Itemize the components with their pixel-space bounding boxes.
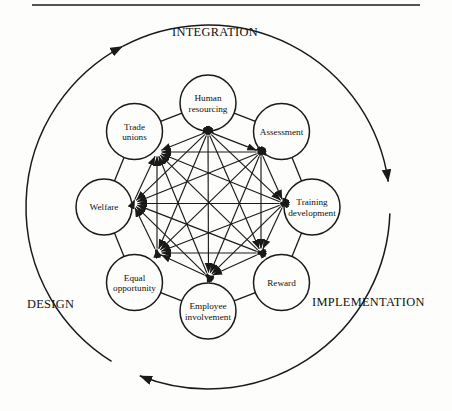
node-label-assessment: Assessment	[260, 127, 304, 137]
edge-v-top-right-v-left	[137, 154, 256, 202]
node-connector-reward-to-employee-involvement	[234, 293, 255, 301]
node-label-line: unions	[122, 132, 147, 142]
phase-label-implementation: IMPLEMENTATION	[312, 295, 425, 309]
edge-v-bottom-v-bottom-left	[161, 255, 204, 275]
node-label-line: involvement	[185, 312, 231, 322]
node-label-trade-unions: Tradeunions	[122, 122, 147, 142]
node-label-equal-opportunity: Equalopportunity	[113, 273, 156, 293]
node-label-line: Human	[194, 93, 221, 103]
edge-v-bottom-right-v-bottom	[213, 255, 257, 275]
node-label-line: Assessment	[260, 127, 304, 137]
inner-complete-graph	[135, 133, 282, 275]
node-connector-equal-opportunity-to-welfare	[114, 233, 124, 257]
edge-v-bottom-right-v-left	[137, 205, 256, 251]
node-connector-trade-unions-to-human-resourcing	[161, 113, 182, 121]
node-label-line: Reward	[267, 278, 296, 288]
node-label-line: Training	[296, 197, 328, 207]
node-label-line: development	[288, 208, 336, 218]
node-label-group: HumanresourcingAssessmentTrainingdevelop…	[90, 93, 337, 321]
node-label-line: Welfare	[90, 202, 119, 212]
phase-label-integration: INTEGRATION	[172, 25, 258, 39]
node-label-line: opportunity	[113, 283, 156, 293]
node-label-human-resourcing: Humanresourcing	[189, 93, 228, 113]
edge-v-bottom-v-top-left	[159, 156, 207, 273]
phase-label-group: INTEGRATIONIMPLEMENTATIONDESIGN	[27, 25, 425, 311]
edge-v-right-v-bottom	[212, 207, 281, 274]
node-connector-training-development-to-reward	[292, 233, 302, 257]
hrm-cycle-diagram: HumanresourcingAssessmentTrainingdevelop…	[0, 0, 452, 411]
edge-v-right-v-bottom-left	[161, 205, 279, 251]
edge-v-left-v-top-left	[135, 156, 155, 199]
node-connector-assessment-to-training-development	[292, 157, 302, 181]
node-connector-human-resourcing-to-assessment	[234, 113, 255, 121]
node-label-line: resourcing	[189, 104, 228, 114]
edge-v-top-v-bottom-right	[210, 136, 259, 249]
phase-label-design: DESIGN	[27, 297, 74, 311]
node-label-line: Trade	[124, 122, 145, 132]
node-label-line: Employee	[189, 301, 226, 311]
node-connector-employee-involvement-to-equal-opportunity	[161, 293, 182, 301]
edge-v-top-right-v-bottom	[210, 156, 259, 273]
edge-v-right-v-bottom-right	[263, 208, 282, 249]
node-label-training-development: Trainingdevelopment	[288, 197, 336, 217]
node-label-welfare: Welfare	[90, 202, 119, 212]
node-label-line: Equal	[124, 273, 146, 283]
edge-v-bottom-left-v-left	[135, 208, 155, 249]
node-connector-welfare-to-trade-unions	[114, 157, 124, 181]
node-label-employee-involvement: Employeeinvolvement	[185, 301, 231, 321]
node-label-reward: Reward	[267, 278, 296, 288]
